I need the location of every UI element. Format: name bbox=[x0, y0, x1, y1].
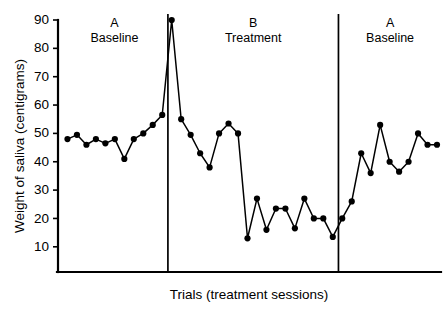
data-point bbox=[273, 205, 279, 211]
chart-canvas: Weight of saliva (centigrams) 1020304050… bbox=[0, 0, 447, 313]
data-point bbox=[131, 136, 137, 142]
data-point bbox=[311, 215, 317, 221]
y-axis-tick-label: 20 bbox=[34, 211, 49, 226]
y-axis-tick-label: 60 bbox=[34, 97, 49, 112]
phase-annotations: ABaselineBTreatmentABaseline bbox=[90, 16, 414, 45]
phase-divider-lines bbox=[168, 14, 339, 272]
series-line bbox=[67, 20, 437, 238]
series-markers bbox=[64, 17, 440, 241]
data-point bbox=[434, 142, 440, 148]
y-axis-tick-label: 30 bbox=[34, 182, 49, 197]
y-axis-tick-label: 70 bbox=[34, 69, 49, 84]
data-point bbox=[197, 150, 203, 156]
data-point bbox=[93, 136, 99, 142]
y-axis-tick-labels: 102030405060708090 bbox=[34, 12, 49, 254]
data-point bbox=[150, 122, 156, 128]
phase-letter-phase-a1: A bbox=[110, 16, 119, 30]
data-point bbox=[74, 132, 80, 138]
data-point bbox=[368, 170, 374, 176]
data-point bbox=[216, 130, 222, 136]
data-point bbox=[169, 17, 175, 23]
data-point bbox=[396, 169, 402, 175]
data-point bbox=[263, 227, 269, 233]
data-point bbox=[188, 132, 194, 138]
x-axis-title: Trials (treatment sessions) bbox=[170, 287, 329, 302]
data-point bbox=[358, 150, 364, 156]
data-point bbox=[83, 142, 89, 148]
data-point bbox=[330, 234, 336, 240]
data-point bbox=[225, 120, 231, 126]
data-point bbox=[244, 235, 250, 241]
data-point bbox=[405, 159, 411, 165]
data-point bbox=[112, 136, 118, 142]
data-point bbox=[254, 196, 260, 202]
phase-letter-phase-b: B bbox=[249, 16, 257, 30]
data-point bbox=[387, 159, 393, 165]
data-point bbox=[349, 198, 355, 204]
data-point bbox=[377, 122, 383, 128]
data-point bbox=[339, 215, 345, 221]
data-point bbox=[207, 164, 213, 170]
data-point bbox=[282, 205, 288, 211]
phase-letter-phase-a2: A bbox=[386, 16, 395, 30]
y-axis-tick-label: 40 bbox=[34, 154, 49, 169]
data-point bbox=[64, 136, 70, 142]
data-point bbox=[415, 130, 421, 136]
data-point bbox=[121, 156, 127, 162]
y-axis-tick-label: 80 bbox=[34, 40, 49, 55]
data-point bbox=[301, 196, 307, 202]
data-point bbox=[320, 215, 326, 221]
data-point bbox=[235, 130, 241, 136]
y-axis-title: Weight of saliva (centigrams) bbox=[12, 59, 27, 233]
y-axis-tick-label: 10 bbox=[34, 239, 49, 254]
data-point bbox=[424, 142, 430, 148]
data-point bbox=[178, 116, 184, 122]
phase-name-phase-a2: Baseline bbox=[366, 31, 414, 45]
data-point bbox=[140, 130, 146, 136]
phase-name-phase-b: Treatment bbox=[225, 31, 282, 45]
phase-name-phase-a1: Baseline bbox=[90, 31, 138, 45]
data-point bbox=[292, 225, 298, 231]
y-axis-tick-label: 90 bbox=[34, 12, 49, 27]
chart-figure: Weight of saliva (centigrams) 1020304050… bbox=[0, 0, 447, 313]
y-axis-tick-label: 50 bbox=[34, 125, 49, 140]
data-point bbox=[159, 112, 165, 118]
data-series-saliva bbox=[64, 17, 440, 241]
data-point bbox=[102, 140, 108, 146]
